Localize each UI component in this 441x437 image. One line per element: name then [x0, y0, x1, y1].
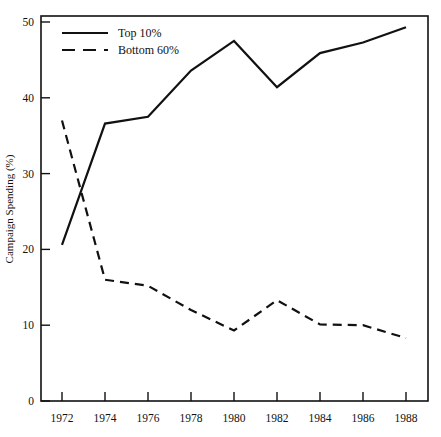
y-axis-title: Campaign Spending (%) — [3, 154, 16, 263]
y-tick-label: 0 — [28, 395, 34, 407]
chart-figure: 0 10 20 30 40 50 Campaign Spending (%) 1… — [0, 0, 441, 437]
series-line-bottom-60 — [62, 121, 406, 339]
line-chart-svg: 0 10 20 30 40 50 Campaign Spending (%) 1… — [0, 0, 441, 437]
y-tick-label: 10 — [23, 319, 35, 331]
x-tick-label: 1982 — [266, 412, 289, 424]
y-tick-label: 30 — [23, 168, 35, 180]
y-axis-ticks — [41, 22, 50, 401]
x-tick-label: 1980 — [223, 412, 246, 424]
y-tick-label: 40 — [23, 92, 35, 104]
series-line-top-10 — [62, 27, 406, 245]
x-tick-label: 1986 — [352, 412, 375, 424]
x-axis-ticks — [62, 392, 406, 401]
x-tick-label: 1978 — [180, 412, 203, 424]
plot-frame — [41, 16, 428, 401]
y-axis-tick-labels: 0 10 20 30 40 50 — [23, 16, 35, 407]
x-axis-tick-labels: 1972 1974 1976 1978 1980 1982 1984 1986 … — [51, 412, 418, 424]
x-tick-label: 1974 — [94, 412, 117, 424]
chart-legend: Top 10% Bottom 60% — [62, 26, 179, 57]
x-tick-label: 1984 — [309, 412, 332, 424]
x-tick-label: 1988 — [395, 412, 418, 424]
x-tick-label: 1976 — [137, 412, 160, 424]
y-tick-label: 20 — [23, 243, 35, 255]
legend-label-top-10: Top 10% — [118, 26, 162, 40]
legend-label-bottom-60: Bottom 60% — [118, 43, 179, 57]
x-tick-label: 1972 — [51, 412, 74, 424]
y-tick-label: 50 — [23, 16, 35, 28]
